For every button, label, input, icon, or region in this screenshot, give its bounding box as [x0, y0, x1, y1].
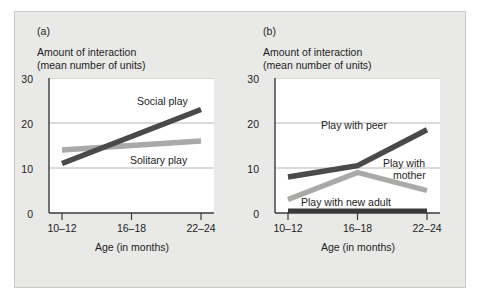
panel-b-label-play-with-peer: Play with peer [321, 119, 387, 131]
panel-b-ytick-0: 0 [237, 209, 259, 220]
panel-b-ytick-30: 30 [237, 74, 259, 85]
panel-a-y-axis-title-line1: Amount of interaction [37, 46, 146, 59]
panel-b-xtick-label-2: 16–18 [332, 223, 384, 234]
panel-b-y-axis-title-line2: (mean number of units) [263, 59, 372, 72]
panel-b-ytick-20: 20 [237, 119, 259, 130]
panel-b-plot-area: 30 20 10 0 Play with pee [263, 78, 453, 253]
panel-a-letter: (a) [37, 25, 50, 37]
panel-b-y-axis-title: Amount of interaction (mean number of un… [263, 46, 372, 71]
panel-b-ytick-10: 10 [237, 164, 259, 175]
panel-a-xtick-label-1: 10–12 [36, 223, 88, 234]
panel-a-xtick-label-3: 22–24 [175, 223, 227, 234]
panel-b-xtick-label-3: 22–24 [401, 223, 453, 234]
chart-panel-b: (b) Amount of interaction (mean number o… [241, 12, 467, 287]
panel-a-label-social-play: Social play [137, 95, 188, 107]
panel-a-y-axis-title-line2: (mean number of units) [37, 59, 146, 72]
panel-a-xtick-label-2: 16–18 [106, 223, 158, 234]
panel-b-label-play-with-mother-line1: Play with [383, 157, 425, 169]
figure-frame: (a) Amount of interaction (mean number o… [14, 11, 466, 288]
panel-b-label-play-with-new-adult: Play with new adult [301, 196, 391, 208]
panel-a-x-axis-title: Age (in months) [37, 241, 227, 253]
panel-b-xtick-label-1: 10–12 [262, 223, 314, 234]
panel-b-y-axis-title-line1: Amount of interaction [263, 46, 372, 59]
panel-a-plot-area: 30 20 10 0 [37, 78, 227, 253]
panel-b-x-axis-title: Age (in months) [263, 241, 453, 253]
chart-panel-a: (a) Amount of interaction (mean number o… [15, 12, 241, 287]
panel-a-ytick-10: 10 [11, 164, 33, 175]
panel-a-ytick-0: 0 [11, 209, 33, 220]
panel-b-letter: (b) [263, 25, 276, 37]
panel-a-y-axis-title: Amount of interaction (mean number of un… [37, 46, 146, 71]
panel-b-label-play-with-mother-line2: mother [393, 169, 426, 181]
panel-a-label-solitary-play: Solitary play [130, 154, 187, 166]
panel-a-ytick-30: 30 [11, 74, 33, 85]
panel-a-ytick-20: 20 [11, 119, 33, 130]
